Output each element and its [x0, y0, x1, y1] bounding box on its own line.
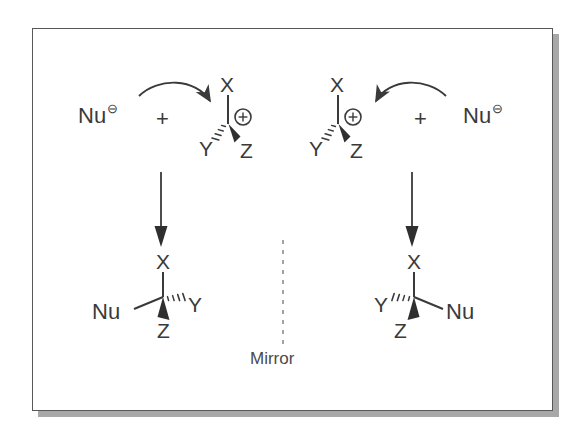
curved-arrow-right — [376, 83, 446, 101]
hashed-bond-y-right-cation — [322, 125, 335, 140]
product-atom-x-left: X — [156, 251, 170, 272]
cation-atom-y-right: Y — [309, 138, 323, 159]
product-atom-nu-right: Nu — [446, 301, 474, 323]
bond-nu-left-product — [134, 297, 163, 309]
cation-atom-y-left: Y — [199, 138, 213, 159]
hashed-bond-y-left-product — [168, 294, 186, 301]
wedge-bond-z-right-cation — [339, 124, 351, 143]
cation-atom-x-right: X — [330, 74, 344, 95]
nucleophile-label-left: Nu⊖ — [78, 104, 117, 127]
product-atom-y-left: Y — [188, 294, 202, 315]
figure-page: Nu⊖ + X Y Z X Nu Y Z Nu⊖ + X Y Z X Y Nu … — [0, 0, 584, 426]
cation-atom-x-left: X — [220, 74, 234, 95]
product-atom-z-right: Z — [394, 320, 407, 341]
mirror-label: Mirror — [250, 350, 294, 367]
nucleophile-charge-right: ⊖ — [492, 101, 503, 116]
bond-nu-right-product — [414, 297, 443, 309]
cation-atom-z-left: Z — [240, 140, 253, 161]
wedge-bond-z-left-cation — [229, 124, 241, 143]
product-atom-x-right: X — [407, 251, 421, 272]
reaction-arrow-head-right — [406, 226, 419, 247]
wedge-bond-z-right-product — [408, 297, 420, 320]
plus-sign-right: + — [414, 108, 427, 130]
nucleophile-charge-left: ⊖ — [107, 101, 118, 116]
reaction-arrow-head-left — [155, 226, 168, 247]
product-atom-y-right: Y — [374, 294, 388, 315]
curved-arrow-left — [139, 83, 210, 101]
plus-sign-left: + — [156, 108, 169, 130]
product-atom-z-left: Z — [157, 320, 170, 341]
wedge-bond-z-left-product — [158, 297, 170, 320]
product-atom-nu-left: Nu — [92, 301, 120, 323]
nucleophile-label-right: Nu⊖ — [463, 104, 502, 127]
hashed-bond-y-left-cation — [212, 125, 225, 140]
cation-atom-z-right: Z — [350, 140, 363, 161]
hashed-bond-y-right-product — [392, 294, 410, 301]
